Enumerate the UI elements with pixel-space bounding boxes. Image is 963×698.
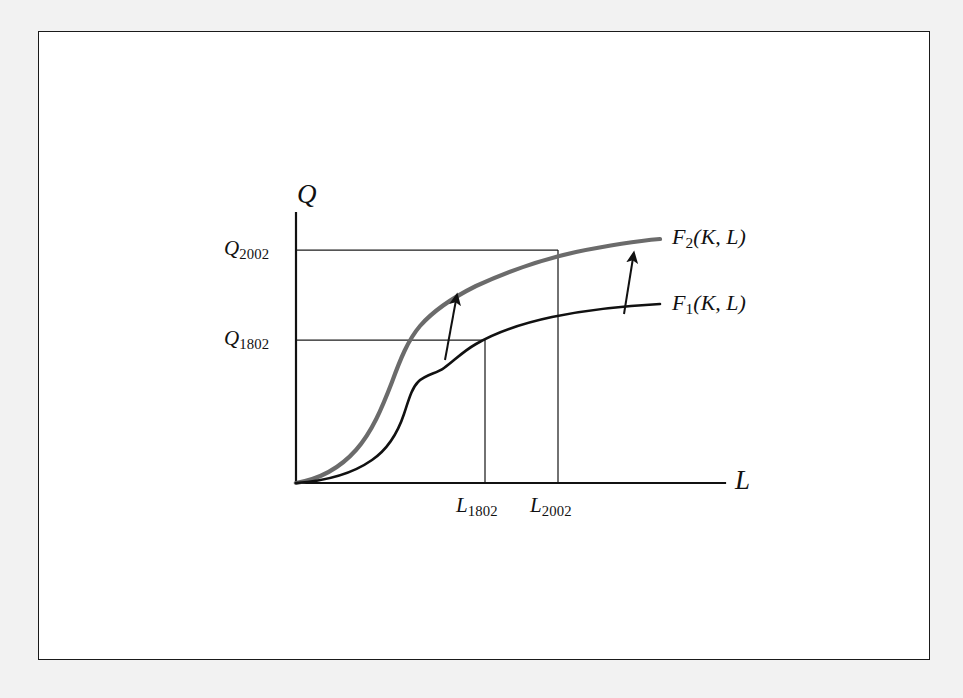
curve-f1-base: F (672, 290, 685, 315)
y-tick-q2002-sub: 2002 (239, 246, 269, 262)
x-tick-l2002-base: L (530, 493, 542, 517)
y-tick-q1802-sub: 1802 (239, 336, 269, 352)
x-tick-l2002-sub: 2002 (542, 503, 572, 519)
curve-f2-sub: 2 (685, 234, 693, 251)
curve-label-f2: F2(K, L) (672, 226, 746, 248)
y-tick-q1802-base: Q (224, 326, 239, 350)
curve-label-f1: F1(K, L) (672, 292, 746, 314)
x-tick-l1802-sub: 1802 (468, 503, 498, 519)
y-tick-label-q2002: Q2002 (224, 238, 269, 259)
y-tick-label-q1802: Q1802 (224, 328, 269, 349)
curve-f1-args: (K, L) (693, 290, 746, 315)
x-tick-l1802-base: L (456, 493, 468, 517)
x-tick-label-l1802: L1802 (456, 495, 498, 516)
x-tick-label-l2002: L2002 (530, 495, 572, 516)
figure-frame-border (38, 31, 930, 660)
x-axis-label: L (735, 467, 750, 494)
figure-page: Q L Q2002 Q1802 L1802 L2002 F2(K, L) F1(… (0, 0, 963, 698)
curve-f2-args: (K, L) (693, 224, 746, 249)
curve-f1-sub: 1 (685, 300, 693, 317)
curve-f2-base: F (672, 224, 685, 249)
y-axis-label: Q (297, 181, 317, 208)
y-tick-q2002-base: Q (224, 236, 239, 260)
